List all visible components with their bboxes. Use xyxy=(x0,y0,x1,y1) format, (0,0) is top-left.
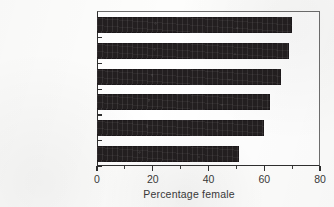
bar-japan xyxy=(97,94,270,110)
x-axis-tick-minor xyxy=(292,166,293,169)
bar-fill xyxy=(97,146,239,162)
y-axis-tick xyxy=(97,63,102,64)
x-axis-tick-minor xyxy=(236,166,237,169)
bar-fill xyxy=(97,120,264,136)
y-axis-tick xyxy=(97,37,102,38)
x-axis-tick-label: 40 xyxy=(203,173,215,185)
bar-fill xyxy=(97,43,289,59)
x-axis-tick-label: 80 xyxy=(314,173,326,185)
bar-germany-fed-r xyxy=(97,17,292,33)
y-axis-tick xyxy=(97,114,102,115)
bar-usa xyxy=(97,43,289,59)
x-axis-title-text: Percentage female xyxy=(143,188,235,200)
y-axis-tick xyxy=(97,140,102,141)
y-axis-tick xyxy=(97,89,102,90)
bar-fill xyxy=(97,17,292,33)
x-axis-title: Percentage female xyxy=(0,188,334,200)
x-axis-tick-label: 20 xyxy=(147,173,159,185)
bar-india xyxy=(97,146,239,162)
x-axis-tick-major xyxy=(319,166,320,171)
x-axis-tick-major xyxy=(208,166,209,171)
x-axis-tick-minor xyxy=(180,166,181,169)
x-axis-tick-major xyxy=(96,166,97,171)
bar-fill xyxy=(97,69,281,85)
y-axis-tick xyxy=(97,166,102,167)
bar-fill xyxy=(97,94,270,110)
bar-chart-figure: Germany, Fed. RUSAChinaJapanGreeceIndia … xyxy=(0,0,334,207)
x-axis-tick-label: 60 xyxy=(258,173,270,185)
x-axis-tick-label: 0 xyxy=(94,173,100,185)
x-axis-tick-major xyxy=(152,166,153,171)
x-axis-tick-minor xyxy=(124,166,125,169)
plot-area xyxy=(97,11,320,166)
bar-china xyxy=(97,69,281,85)
x-axis-tick-major xyxy=(264,166,265,171)
bar-greece xyxy=(97,120,264,136)
